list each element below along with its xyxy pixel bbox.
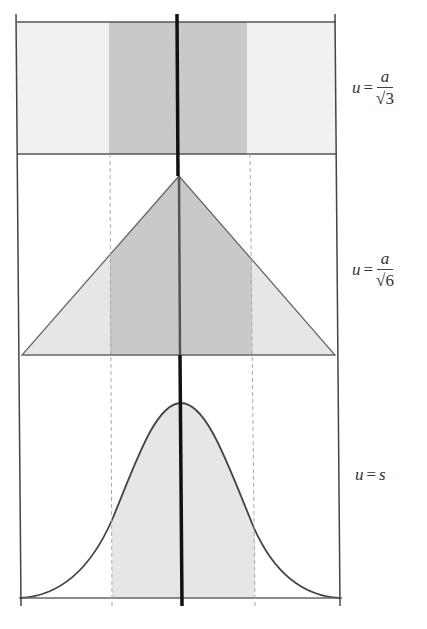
label-eq: = xyxy=(367,465,377,485)
label-triangular: u = a √6 xyxy=(352,250,394,289)
label-normal: u = s xyxy=(355,465,386,485)
denominator: √6 xyxy=(376,270,394,289)
dashed-left xyxy=(110,154,112,606)
label-eq: = xyxy=(364,260,374,280)
center-line-mid xyxy=(179,176,180,355)
fraction: a √3 xyxy=(376,68,394,107)
numerator: a xyxy=(377,68,394,88)
label-lhs: u xyxy=(352,78,361,98)
label-rhs: s xyxy=(379,465,386,485)
denominator-value: 3 xyxy=(385,89,394,108)
fraction: a √6 xyxy=(376,250,394,289)
label-eq: = xyxy=(364,78,374,98)
denominator-value: 6 xyxy=(385,271,394,290)
label-lhs: u xyxy=(352,260,361,280)
label-lhs: u xyxy=(355,465,364,485)
frame-right xyxy=(335,14,340,606)
label-rectangular: u = a √3 xyxy=(352,68,394,107)
center-line-top xyxy=(177,14,178,176)
denominator: √3 xyxy=(376,88,394,107)
center-line-bottom xyxy=(180,355,182,606)
bell-uncertainty-band xyxy=(112,403,255,598)
numerator: a xyxy=(377,250,394,270)
